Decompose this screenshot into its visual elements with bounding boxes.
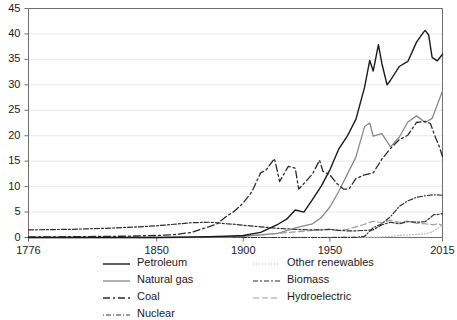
- legend-line-swatch: [103, 307, 130, 319]
- legend-line-swatch: [103, 256, 130, 268]
- legend-line-swatch: [253, 290, 280, 302]
- legend-item-other-renewables[interactable]: Other renewables: [253, 253, 374, 270]
- legend-line-swatch: [103, 290, 130, 302]
- y-axis-tick-label: 35: [0, 52, 21, 64]
- plot-frame: [29, 9, 443, 238]
- y-axis-tick-label: 40: [0, 27, 21, 39]
- y-axis-tick-label: 45: [0, 2, 21, 14]
- legend-label: Nuclear: [137, 307, 175, 319]
- energy-consumption-line-chart: 05101520253035404517761850190019502015 P…: [0, 0, 457, 320]
- axis-ticks: [25, 9, 443, 242]
- legend-label: Biomass: [287, 273, 329, 285]
- legend-label: Coal: [137, 290, 160, 302]
- legend-item-hydroelectric[interactable]: Hydroelectric: [253, 287, 374, 304]
- series-line-nuclear: [29, 195, 443, 238]
- y-axis-tick-label: 25: [0, 103, 21, 115]
- legend-label: Other renewables: [287, 256, 374, 268]
- legend-line-swatch: [103, 273, 130, 285]
- legend-label: Hydroelectric: [287, 290, 351, 302]
- series-line-coal: [29, 121, 443, 237]
- legend-column-right: Other renewablesBiomassHydroelectric: [253, 253, 374, 304]
- data-series-group: [29, 30, 443, 237]
- y-axis-tick-label: 0: [0, 231, 21, 243]
- legend-item-natural-gas[interactable]: Natural gas: [103, 270, 193, 287]
- legend-item-biomass[interactable]: Biomass: [253, 270, 374, 287]
- legend-label: Natural gas: [137, 273, 193, 285]
- y-axis-tick-label: 20: [0, 129, 21, 141]
- legend-line-swatch: [253, 273, 280, 285]
- chart-legend: PetroleumNatural gasCoalNuclear Other re…: [0, 253, 457, 320]
- legend-item-coal[interactable]: Coal: [103, 287, 193, 304]
- y-axis-tick-label: 30: [0, 78, 21, 90]
- y-axis-tick-label: 10: [0, 180, 21, 192]
- legend-item-nuclear[interactable]: Nuclear: [103, 304, 193, 320]
- gridlines: [29, 9, 443, 213]
- legend-line-swatch: [253, 256, 280, 268]
- legend-label: Petroleum: [137, 256, 187, 268]
- y-axis-tick-label: 5: [0, 205, 21, 217]
- legend-item-petroleum[interactable]: Petroleum: [103, 253, 193, 270]
- y-axis-tick-label: 15: [0, 154, 21, 166]
- series-line-natural-gas: [29, 91, 443, 238]
- legend-column-left: PetroleumNatural gasCoalNuclear: [103, 253, 193, 320]
